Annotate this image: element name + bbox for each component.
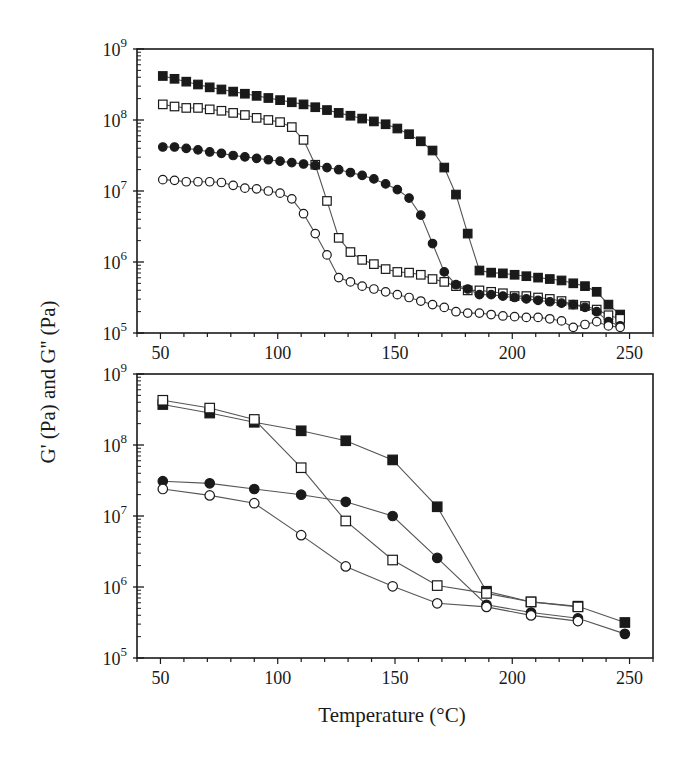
x-tick-label: 250 (616, 668, 643, 688)
filled-square-marker (522, 272, 531, 281)
open-circle-marker (229, 181, 238, 190)
open-circle-marker (250, 498, 259, 508)
filled-circle-marker (276, 157, 285, 166)
open-circle-marker (311, 229, 320, 238)
filled-square-marker (159, 72, 168, 81)
filled-square-marker (569, 279, 578, 288)
filled-circle-marker (581, 303, 590, 312)
filled-square-marker (217, 85, 226, 94)
y-tick-label: 107 (103, 502, 128, 527)
filled-square-marker (417, 137, 426, 146)
filled-circle-marker (381, 180, 390, 189)
filled-circle-marker (346, 168, 355, 177)
open-circle-marker (393, 290, 402, 299)
open-square-marker (370, 260, 379, 269)
filled-square-marker (341, 436, 351, 446)
open-circle-marker (264, 187, 273, 196)
filled-square-marker (499, 269, 508, 278)
filled-square-marker (241, 89, 250, 98)
open-square-marker (388, 555, 398, 565)
open-square-marker (170, 102, 179, 111)
open-circle-marker (381, 288, 390, 297)
open-square-marker (323, 197, 332, 206)
open-square-marker (428, 275, 437, 284)
filled-square-marker (311, 103, 320, 112)
filled-circle-marker (452, 280, 461, 289)
filled-circle-marker (569, 300, 578, 309)
y-axis-title: G' (Pa) and G'' (Pa) (36, 301, 60, 464)
open-circle-marker (296, 530, 306, 540)
open-square-marker (346, 248, 355, 257)
open-square-marker (182, 104, 191, 113)
open-circle-marker (592, 317, 601, 326)
filled-square-marker (299, 100, 308, 109)
open-square-marker (264, 116, 273, 125)
filled-circle-marker (170, 143, 179, 152)
filled-square-marker (557, 276, 566, 285)
filled-circle-marker (311, 161, 320, 170)
open-circle-marker (417, 297, 426, 306)
filled-square-marker (428, 146, 437, 155)
filled-square-marker (170, 75, 179, 84)
open-square-marker (158, 396, 168, 406)
open-square-marker (205, 403, 215, 413)
filled-square-marker (288, 98, 297, 107)
open-circle-marker (205, 178, 214, 187)
filled-circle-marker (241, 153, 250, 162)
filled-square-marker (546, 275, 555, 284)
filled-circle-marker (205, 479, 215, 489)
filled-square-marker (393, 124, 402, 132)
filled-square-marker (581, 282, 590, 291)
y-tick-label: 105 (103, 319, 128, 344)
y-tick-label: 106 (103, 573, 128, 598)
open-square-marker (194, 104, 203, 113)
filled-circle-marker (405, 194, 414, 203)
bottom-panel-plot: 50100150200250105106107108109 (103, 360, 654, 688)
filled-circle-marker (510, 293, 519, 302)
open-circle-marker (194, 178, 203, 187)
open-square-marker (296, 463, 306, 473)
open-square-marker (217, 107, 226, 116)
open-square-marker (341, 516, 351, 526)
open-circle-marker (370, 285, 379, 294)
filled-square-marker (264, 94, 273, 103)
y-tick-label: 108 (103, 431, 128, 456)
top-panel-plot: 50100150200250105106107108109 (103, 35, 654, 363)
open-square-marker (250, 415, 259, 425)
filled-circle-marker (205, 148, 214, 157)
open-circle-marker (499, 312, 508, 321)
open-circle-marker (276, 189, 285, 198)
open-circle-marker (475, 309, 484, 318)
filled-circle-marker (264, 156, 273, 165)
filled-square-marker (182, 77, 191, 86)
filled-square-marker (323, 106, 332, 115)
filled-circle-marker (323, 163, 332, 172)
y-tick-label: 109 (103, 35, 128, 60)
filled-circle-marker (358, 171, 367, 180)
open-circle-marker (604, 322, 613, 331)
filled-circle-marker (393, 185, 402, 194)
open-circle-marker (428, 300, 437, 309)
filled-square-marker (452, 190, 461, 199)
filled-circle-marker (334, 165, 343, 174)
filled-circle-marker (428, 239, 437, 248)
filled-square-marker (370, 117, 379, 126)
open-square-marker (229, 109, 238, 118)
filled-square-marker (604, 300, 613, 309)
open-circle-marker (463, 309, 472, 318)
x-tick-label: 100 (264, 343, 291, 363)
open-square-marker (334, 234, 343, 243)
open-circle-marker (170, 176, 179, 185)
x-tick-label: 150 (382, 668, 409, 688)
filled-circle-marker (229, 151, 238, 160)
filled-square-marker (194, 80, 203, 89)
open-circle-marker (440, 303, 449, 312)
open-circle-marker (546, 315, 555, 324)
series-line (163, 104, 620, 318)
open-circle-marker (341, 562, 351, 572)
x-tick-label: 50 (151, 343, 169, 363)
filled-circle-marker (299, 160, 308, 169)
open-circle-marker (346, 278, 355, 287)
filled-square-marker (346, 111, 355, 120)
x-tick-label: 250 (616, 343, 643, 363)
